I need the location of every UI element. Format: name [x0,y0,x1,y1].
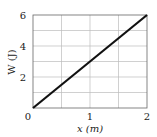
x-axis-label: x (m) [77,123,103,134]
y-tick-4: 4 [20,41,26,52]
x-tick-2: 2 [144,111,150,122]
y-tick-6: 6 [20,10,26,21]
y-tick-2: 2 [20,72,26,83]
y-axis-label: W (J) [6,49,17,74]
x-tick-1: 1 [87,111,93,122]
origin-label: 0 [25,111,31,122]
chart: 6 4 2 0 1 2 x (m) W (J) [0,0,157,137]
